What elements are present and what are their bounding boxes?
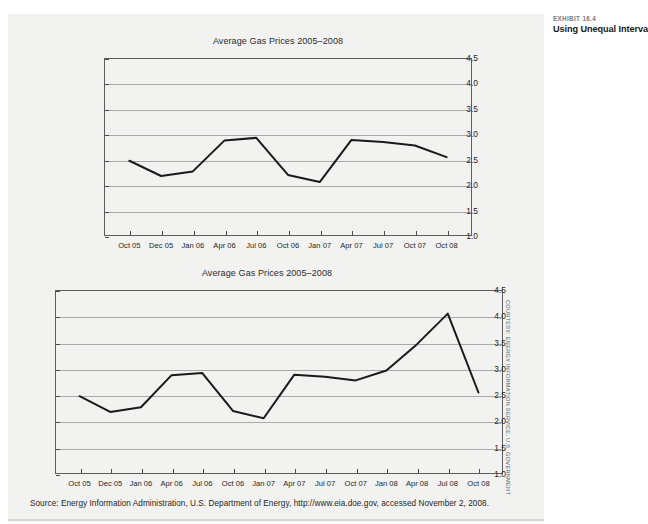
paper-bottom-rule — [8, 519, 544, 521]
data-series-layer — [28, 268, 506, 493]
data-series-layer — [78, 36, 478, 251]
price-line-series — [80, 314, 479, 419]
price-line-series — [129, 138, 446, 182]
source-note: Source: Energy Information Administratio… — [30, 499, 489, 508]
exhibit-page: EXHIBIT 16.4 Using Unequal Intervals Ave… — [0, 0, 648, 524]
exhibit-title: Using Unequal Intervals — [553, 23, 645, 35]
exhibit-kicker: EXHIBIT 16.4 — [553, 14, 645, 23]
chart-unequal-intervals: Average Gas Prices 2005–2008 1.01.52.02.… — [78, 36, 478, 251]
exhibit-header: EXHIBIT 16.4 Using Unequal Intervals — [553, 14, 645, 35]
chart-equal-intervals: Average Gas Prices 2005–2008 1.01.52.02.… — [28, 268, 506, 493]
image-credit: COURTESY: ENERGY INFORMATION SERVICE, U.… — [505, 300, 511, 495]
